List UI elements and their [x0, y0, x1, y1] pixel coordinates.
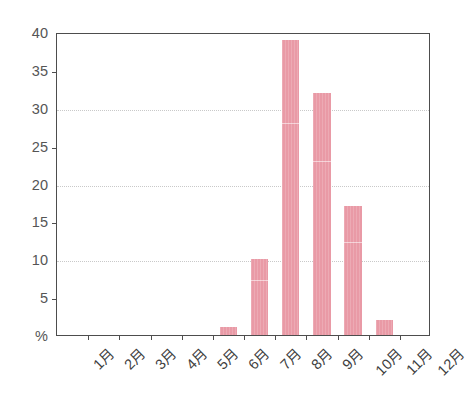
x-axis-tick-label: 2月 — [121, 346, 147, 372]
y-tick-5 — [52, 299, 57, 300]
bar-9月[interactable] — [313, 93, 330, 335]
bar-7月[interactable] — [251, 259, 268, 335]
y-axis-tick-label: % — [4, 329, 48, 344]
y-axis-tick-label: 35 — [4, 64, 48, 79]
x-tick — [244, 335, 245, 340]
x-axis-tick-label: 12月 — [435, 346, 467, 378]
x-axis-tick-label: 8月 — [308, 346, 334, 372]
x-tick — [151, 335, 152, 340]
x-axis-tick-label: 7月 — [277, 346, 303, 372]
x-axis-tick-label: 10月 — [373, 346, 405, 378]
y-axis-tick-label: 10 — [4, 253, 48, 268]
bar-11月[interactable] — [376, 320, 393, 335]
y-axis-tick-label: 20 — [4, 178, 48, 193]
x-tick — [213, 335, 214, 340]
x-tick — [369, 335, 370, 340]
x-tick — [182, 335, 183, 340]
gridline-10 — [57, 261, 429, 262]
bar-seam — [344, 242, 361, 243]
x-axis-tick-label: 4月 — [184, 346, 210, 372]
gridline-30 — [57, 110, 429, 111]
x-tick — [400, 335, 401, 340]
x-tick — [275, 335, 276, 340]
x-tick — [88, 335, 89, 340]
x-tick — [119, 335, 120, 340]
y-axis-tick-label: 5 — [4, 291, 48, 306]
y-tick-25 — [52, 148, 57, 149]
x-axis-tick-label: 11月 — [404, 346, 435, 377]
bar-8月[interactable] — [282, 40, 299, 335]
x-tick — [306, 335, 307, 340]
y-axis-tick-label: 15 — [4, 215, 48, 230]
bar-seam — [313, 161, 330, 162]
x-axis-tick-label: 3月 — [153, 346, 179, 372]
y-tick-35 — [52, 72, 57, 73]
plot-area — [56, 33, 430, 336]
y-axis-tick-label: 30 — [4, 102, 48, 117]
bar-10月[interactable] — [344, 206, 361, 335]
x-axis-tick-label: 1月 — [90, 346, 116, 372]
x-axis-tick-label: 6月 — [246, 346, 272, 372]
x-axis-tick-label: 5月 — [215, 346, 241, 372]
x-axis-tick-label: 9月 — [340, 346, 366, 372]
y-axis-tick-label: 40 — [4, 26, 48, 41]
y-tick-15 — [52, 223, 57, 224]
y-axis-tick-label: 25 — [4, 140, 48, 155]
x-tick — [338, 335, 339, 340]
gridline-20 — [57, 186, 429, 187]
bar-seam — [251, 280, 268, 281]
bar-seam — [282, 123, 299, 124]
bar-6月[interactable] — [220, 327, 237, 335]
